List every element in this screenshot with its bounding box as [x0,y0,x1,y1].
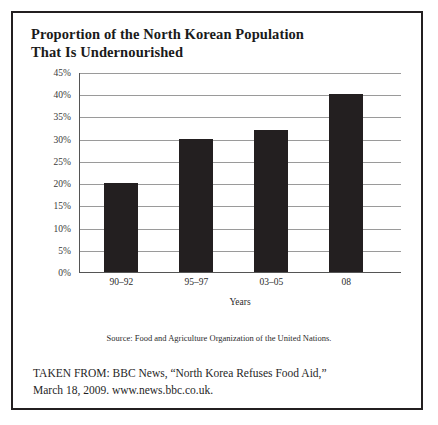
x-axis-title: Years [79,297,401,307]
bar-slot [254,73,288,272]
y-axis-tick-label: 30% [54,135,71,145]
y-axis-tick-label: 0% [58,268,71,278]
title-line-1: Proportion of the North Korean Populatio… [31,25,401,43]
y-axis-tick-label: 45% [54,68,71,78]
citation-block: TAKEN FROM: BBC News, “North Korea Refus… [33,365,409,399]
source-note: Source: Food and Agriculture Organizatio… [31,333,407,343]
y-axis-tick-label: 20% [54,179,71,189]
bar-slot [329,73,363,272]
y-axis-tick-label: 40% [54,90,71,100]
x-axis-tick-label: 90–92 [109,277,133,287]
plot-area [79,73,401,273]
citation-line-2: March 18, 2009. www.news.bbc.co.uk. [33,382,409,399]
bar [104,183,138,272]
bar [179,139,213,272]
y-axis-tick-label: 10% [54,224,71,234]
y-axis-tick-label: 35% [54,112,71,122]
bar-series [80,73,401,272]
figure-card: Proportion of the North Korean Populatio… [11,11,423,410]
citation-line-1: TAKEN FROM: BBC News, “North Korea Refus… [33,365,409,382]
x-axis-line [79,272,401,273]
bar-slot [179,73,213,272]
x-axis-tick-label: 03–05 [259,277,283,287]
bar [254,130,288,272]
y-axis-tick-labels: 45%40%35%30%25%20%15%10%5%0% [31,73,75,273]
page-title: Proportion of the North Korean Populatio… [31,25,401,61]
y-axis-tick-label: 5% [58,246,71,256]
x-axis-tick-label: 95–97 [184,277,208,287]
bar-chart: 45%40%35%30%25%20%15%10%5%0% 90–9295–970… [31,73,407,323]
y-axis-tick-label: 25% [54,157,71,167]
x-axis-tick-labels: 90–9295–9703–0508 [79,277,401,293]
title-line-2: That Is Undernourished [31,43,401,61]
bar [329,94,363,272]
bar-slot [104,73,138,272]
x-axis-tick-label: 08 [342,277,352,287]
y-axis-tick-label: 15% [54,201,71,211]
